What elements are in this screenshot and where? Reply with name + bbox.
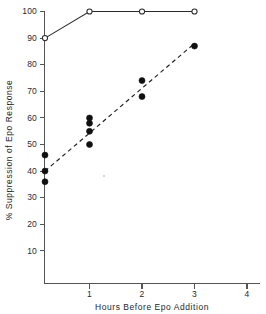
x-tick-label: 3 [192, 289, 197, 299]
y-axis-ticks [40, 12, 45, 251]
series-regression-line [45, 43, 195, 171]
data-point-filled [42, 152, 48, 158]
y-tick-label: 60 [27, 113, 37, 123]
data-point-open [87, 9, 92, 14]
x-axis-title: Hours Before Epo Addition [95, 302, 209, 312]
data-point-filled [139, 78, 145, 84]
y-axis-title: % Suppression of Epo Response [4, 80, 14, 221]
x-axis-tick-labels: 1 2 3 4 [87, 289, 250, 299]
x-tick-label: 1 [87, 289, 92, 299]
x-axis: 1 2 3 4 Hours Before Epo Addition [45, 284, 261, 313]
x-tick-label: 2 [140, 289, 145, 299]
series-filled-circles [42, 43, 198, 185]
data-point-filled [87, 120, 93, 126]
y-axis-tick-labels: 100 90 80 70 60 50 40 30 20 10 [22, 6, 37, 255]
y-tick-label: 30 [27, 192, 37, 202]
y-tick-label: 40 [27, 166, 37, 176]
data-point-filled [139, 94, 145, 100]
y-tick-label: 80 [27, 59, 37, 69]
y-tick-label: 70 [27, 86, 37, 96]
data-point-filled [192, 43, 198, 49]
y-tick-label: 100 [22, 6, 37, 16]
data-point-open [192, 9, 197, 14]
data-point-filled [42, 179, 48, 185]
open-series-line [45, 12, 195, 39]
data-point-filled [42, 168, 48, 174]
y-tick-label: 20 [27, 219, 37, 229]
y-axis: 100 90 80 70 60 50 40 30 20 10 % Suppres… [4, 6, 45, 283]
data-point-open [42, 36, 47, 41]
chart-figure: 100 90 80 70 60 50 40 30 20 10 % Suppres… [0, 0, 266, 314]
data-point-filled [87, 128, 93, 134]
paper-speck [103, 175, 105, 177]
chart-svg: 100 90 80 70 60 50 40 30 20 10 % Suppres… [0, 0, 266, 314]
x-tick-label: 4 [245, 289, 250, 299]
y-tick-label: 90 [27, 33, 37, 43]
x-axis-ticks [90, 284, 248, 289]
y-tick-label: 50 [27, 139, 37, 149]
y-tick-label: 10 [27, 246, 37, 256]
data-point-open [139, 9, 144, 14]
regression-dashed-line [45, 43, 195, 171]
series-open-circles [42, 9, 197, 41]
data-point-filled [87, 142, 93, 148]
